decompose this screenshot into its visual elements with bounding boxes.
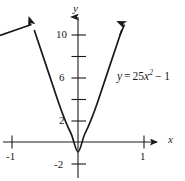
y-tick-label-6: 6 bbox=[59, 72, 65, 83]
equation-constant: − 1 bbox=[155, 70, 170, 82]
equation-coefficient: 25 bbox=[133, 70, 145, 82]
equation-equals: = bbox=[124, 70, 131, 82]
equation-annotation: y=25x2− 1 bbox=[117, 69, 170, 82]
parabola-left-arrow bbox=[0, 25, 32, 36]
parabola-right-arrow bbox=[120, 25, 125, 36]
graph-figure: 10 6 2 -2 -1 1 y x y=25x2− 1 bbox=[0, 0, 185, 181]
y-tick-label-2: 2 bbox=[59, 115, 65, 126]
graph-canvas bbox=[0, 0, 185, 181]
x-tick-label-1: 1 bbox=[140, 151, 146, 162]
y-tick-label-minus-2: -2 bbox=[54, 159, 63, 170]
x-tick-label-minus-1: -1 bbox=[6, 151, 15, 162]
y-axis-label: y bbox=[73, 3, 78, 14]
x-axis-label: x bbox=[168, 134, 173, 145]
equation-lhs: y bbox=[117, 70, 122, 82]
y-tick-label-10: 10 bbox=[56, 29, 67, 40]
equation-exponent: 2 bbox=[149, 68, 153, 77]
